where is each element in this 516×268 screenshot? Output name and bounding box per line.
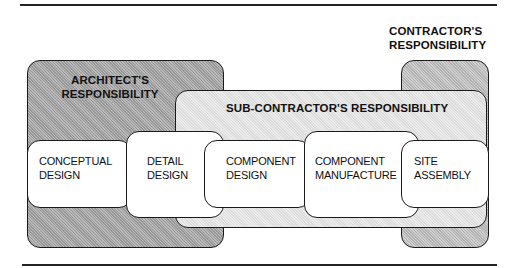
- stage-label-line2: DESIGN: [39, 169, 112, 183]
- stage-conceptual-design: CONCEPTUAL DESIGN: [27, 140, 132, 208]
- stage-label-line2: DESIGN: [226, 169, 296, 183]
- stage-label-line1: CONCEPTUAL: [39, 155, 112, 169]
- stage-label: CONCEPTUAL DESIGN: [39, 155, 112, 182]
- architect-responsibility-heading: ARCHITECT'S RESPONSIBILITY: [60, 73, 160, 101]
- subcontractor-responsibility-heading: SUB-CONTRACTOR'S RESPONSIBILITY: [226, 101, 448, 115]
- stage-label: COMPONENT MANUFACTURE: [315, 155, 397, 182]
- stage-label-line1: SITE: [414, 155, 471, 169]
- stage-component-design: COMPONENT DESIGN: [204, 140, 311, 208]
- architect-heading-line1: ARCHITECT'S: [60, 73, 160, 87]
- stage-label-line1: COMPONENT: [315, 155, 397, 169]
- stage-label-line1: DETAIL: [147, 155, 188, 169]
- stage-label-line2: ASSEMBLY: [414, 169, 471, 183]
- stage-label-line1: COMPONENT: [226, 155, 296, 169]
- stage-label: SITE ASSEMBLY: [414, 155, 471, 182]
- architect-heading-line2: RESPONSIBILITY: [60, 87, 160, 101]
- stage-label: DETAIL DESIGN: [147, 155, 188, 182]
- stage-label: COMPONENT DESIGN: [226, 155, 296, 182]
- contractor-responsibility-heading: CONTRACTOR'S RESPONSIBILITY: [389, 24, 486, 52]
- contractor-heading-line1: CONTRACTOR'S: [389, 24, 486, 38]
- stage-site-assembly: SITE ASSEMBLY: [401, 140, 489, 208]
- stage-label-line2: DESIGN: [147, 169, 188, 183]
- top-rule: [20, 4, 497, 6]
- stage-label-line2: MANUFACTURE: [315, 169, 397, 183]
- contractor-heading-line2: RESPONSIBILITY: [389, 38, 486, 52]
- bottom-rule: [22, 264, 497, 266]
